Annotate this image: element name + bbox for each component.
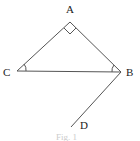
angle-mark-b	[112, 65, 114, 72]
label-a: A	[66, 3, 74, 15]
label-b: B	[126, 66, 133, 78]
segment-cb	[17, 71, 121, 72]
figure-caption: Fig. 1	[56, 132, 77, 141]
right-angle-mark-a	[64, 28, 76, 34]
segment-ab	[70, 22, 121, 72]
segment-bd	[71, 72, 121, 127]
label-d: D	[80, 119, 88, 131]
geometry-figure: A C B D Fig. 1	[0, 0, 140, 141]
angle-mark-c	[24, 64, 26, 71]
segment-ac	[17, 22, 70, 71]
label-c: C	[3, 66, 10, 78]
triangle-diagram: A C B D Fig. 1	[0, 0, 140, 141]
